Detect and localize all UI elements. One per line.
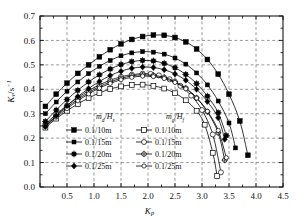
marker-square-filled-small bbox=[65, 89, 69, 93]
marker-square-hollow bbox=[183, 98, 188, 103]
marker-circle-hollow-small bbox=[224, 156, 228, 160]
marker-square-filled-small bbox=[97, 64, 101, 68]
marker-circle-hollow bbox=[218, 170, 223, 175]
marker-square-hollow bbox=[140, 82, 145, 87]
marker-square-hollow bbox=[119, 84, 124, 89]
marker-square-hollow bbox=[202, 122, 207, 127]
y-tick-label: 0.7 bbox=[24, 11, 36, 21]
marker-square-filled-small bbox=[119, 54, 123, 58]
marker-square-hollow bbox=[108, 87, 113, 92]
marker-circle-hollow-small bbox=[119, 78, 123, 82]
y-tick-label: 0.2 bbox=[24, 133, 35, 143]
marker-square-filled-small bbox=[173, 56, 177, 60]
x-tick-label: 1.5 bbox=[115, 191, 127, 201]
legend-right-label: 0.1/20m bbox=[155, 150, 182, 159]
marker-circle-hollow-small bbox=[205, 109, 209, 113]
marker-circle-hollow-small bbox=[142, 164, 146, 168]
marker-square-filled-small bbox=[130, 51, 134, 55]
legend-header-h-sub: s bbox=[113, 117, 115, 123]
legend-left-label: 0.1/20m bbox=[85, 150, 112, 159]
legend-left-label: 0.1/10m bbox=[85, 126, 112, 135]
marker-square-filled-small bbox=[216, 99, 220, 103]
marker-square-filled-small bbox=[151, 50, 155, 54]
x-tick-label: 2.5 bbox=[169, 191, 181, 201]
x-tick-label: 2.0 bbox=[142, 191, 154, 201]
marker-square-filled bbox=[75, 71, 80, 76]
marker-square-filled bbox=[86, 62, 91, 67]
x-tick-label: 4.5 bbox=[277, 191, 289, 201]
marker-square-hollow bbox=[129, 82, 134, 87]
marker-square-filled bbox=[140, 34, 145, 39]
marker-circle-hollow-small bbox=[141, 74, 145, 78]
marker-square-filled bbox=[173, 35, 178, 40]
marker-circle-hollow-small bbox=[108, 81, 112, 85]
marker-square-hollow bbox=[162, 86, 167, 91]
legend-left-marker bbox=[72, 128, 77, 133]
marker-circle-hollow-small bbox=[130, 75, 134, 79]
marker-circle-hollow-small bbox=[195, 96, 199, 100]
marker-square-filled bbox=[183, 39, 188, 44]
marker-square-filled bbox=[216, 72, 221, 77]
marker-square-filled bbox=[43, 104, 48, 109]
marker-square-hollow bbox=[210, 150, 215, 155]
marker-circle-hollow-small bbox=[216, 128, 220, 132]
marker-square-filled bbox=[151, 33, 156, 38]
marker-square-filled-small bbox=[76, 80, 80, 84]
marker-square-hollow bbox=[97, 91, 102, 96]
legend-right-label: 0.1/15m bbox=[155, 138, 182, 147]
marker-square-filled bbox=[237, 119, 242, 124]
marker-circle-hollow-small bbox=[162, 76, 166, 80]
chart-figure: 0.00.10.20.30.40.50.60.70.51.01.52.02.53… bbox=[0, 0, 299, 224]
marker-square-filled bbox=[129, 37, 134, 42]
marker-circle-hollow bbox=[200, 108, 205, 113]
marker-square-filled bbox=[119, 41, 124, 46]
marker-square-filled-small bbox=[162, 52, 166, 56]
marker-square-filled-small bbox=[54, 100, 58, 104]
x-tick-label: 1.0 bbox=[88, 191, 100, 201]
chart-canvas: 0.00.10.20.30.40.50.60.70.51.01.52.02.53… bbox=[0, 0, 299, 224]
legend-right-marker bbox=[142, 128, 147, 133]
marker-square-filled-small bbox=[233, 146, 237, 150]
marker-square-filled-small bbox=[195, 71, 199, 75]
marker-square-filled bbox=[205, 57, 210, 62]
marker-square-filled-small bbox=[72, 140, 76, 144]
marker-square-filled bbox=[194, 47, 199, 52]
x-tick-label: 3.5 bbox=[223, 191, 235, 201]
legend-right-label: 0.1/25m bbox=[155, 162, 182, 171]
x-axis-label: Kp bbox=[0, 206, 299, 216]
y-tick-label: 0.5 bbox=[24, 60, 36, 70]
legend-left-label: 0.1/15m bbox=[85, 138, 112, 147]
marker-square-hollow bbox=[194, 108, 199, 113]
marker-square-filled-small bbox=[87, 72, 91, 76]
marker-circle-hollow-small bbox=[87, 92, 91, 96]
marker-square-hollow bbox=[142, 128, 147, 133]
y-tick-label: 0.6 bbox=[24, 36, 36, 46]
marker-square-filled bbox=[72, 128, 77, 133]
marker-square-filled-small bbox=[108, 58, 112, 62]
marker-square-filled bbox=[227, 92, 232, 97]
marker-circle-hollow-small bbox=[97, 86, 101, 90]
marker-square-filled-small bbox=[227, 121, 231, 125]
marker-square-filled bbox=[162, 33, 167, 38]
marker-square-filled bbox=[246, 153, 251, 158]
legend-right-marker bbox=[142, 164, 146, 168]
y-tick-label: 0.3 bbox=[24, 109, 36, 119]
y-tick-label: 0.4 bbox=[24, 84, 36, 94]
marker-square-filled-small bbox=[141, 50, 145, 54]
x-tick-label: 0.5 bbox=[61, 191, 73, 201]
x-tick-label: 3.0 bbox=[196, 191, 208, 201]
marker-square-hollow bbox=[173, 91, 178, 96]
marker-square-hollow bbox=[215, 174, 220, 179]
y-axis-label: Kv/s−1 bbox=[5, 70, 16, 114]
x-tick-label: 4.0 bbox=[250, 191, 262, 201]
marker-square-filled-small bbox=[205, 83, 209, 87]
marker-square-filled bbox=[97, 54, 102, 59]
y-tick-label: 0.0 bbox=[24, 182, 36, 192]
marker-square-filled bbox=[108, 47, 113, 52]
legend-left-label: 0.1/25m bbox=[85, 162, 112, 171]
marker-circle-hollow-small bbox=[151, 74, 155, 78]
legend-left-marker bbox=[72, 140, 76, 144]
marker-circle-hollow bbox=[210, 132, 215, 137]
marker-circle-hollow bbox=[142, 140, 147, 145]
legend-right-marker bbox=[142, 140, 147, 145]
